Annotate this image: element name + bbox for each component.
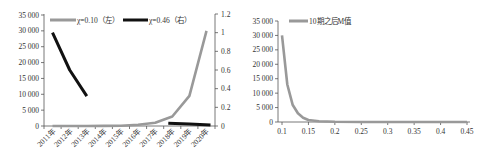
y-tick-label: 30 000 — [252, 31, 273, 40]
x-tick-label: 0.1 — [277, 127, 287, 136]
legend: χ=0.10（左） χ=0.46（右） — [50, 15, 191, 25]
x-tick-label: 0.4 — [436, 127, 446, 136]
y-tick-label: 0.8 — [221, 47, 231, 56]
y-tick-label: 35 000 — [18, 11, 39, 20]
y-tick-label: 35 000 — [252, 17, 273, 26]
y-tick-label: 0.2 — [221, 103, 231, 112]
series-line — [53, 33, 87, 96]
y-tick-label: 20 000 — [18, 58, 39, 67]
y-tick-label: 0 — [35, 122, 39, 131]
right-chart: 05 00010 00015 00020 00025 00030 00035 0… — [252, 16, 473, 136]
y-tick-label: 15 000 — [18, 74, 39, 83]
y-tick-label: 0.4 — [221, 84, 231, 93]
legend-label-chi010: χ=0.10（左） — [77, 15, 119, 25]
y-tick-label: 15 000 — [252, 74, 273, 83]
y-tick-label: 5 000 — [22, 106, 39, 115]
y-tick-label: 1.2 — [221, 10, 231, 19]
y-tick-label: 25 000 — [18, 42, 39, 51]
y-tick-label: 0 — [221, 122, 225, 131]
x-tick-label: 0.25 — [355, 127, 368, 136]
legend: 10期之后M值 — [289, 16, 352, 26]
series-line — [168, 123, 210, 125]
y-tick-label: 5 000 — [256, 103, 273, 112]
charts-canvas: 05 00010 00015 00020 00025 00030 00035 0… — [0, 0, 483, 159]
x-tick-label: 0.35 — [408, 127, 421, 136]
left-y-ticks: 05 00010 00015 00020 00025 00030 00035 0… — [18, 11, 44, 131]
y-tick-label: 25 000 — [252, 45, 273, 54]
x-tick-label: 2020年 — [188, 126, 211, 149]
y-tick-label: 20 000 — [252, 60, 273, 69]
y-tick-label: 30 000 — [18, 26, 39, 35]
x-ticks: 2011年2012年2013年2014年2015年2016年2017年2018年… — [35, 126, 215, 149]
y-tick-label: 0.6 — [221, 66, 231, 75]
left-chart: 05 00010 00015 00020 00025 00030 00035 0… — [18, 10, 230, 149]
series-line — [282, 35, 467, 122]
y-ticks: 05 00010 00015 00020 00025 00030 00035 0… — [252, 17, 278, 127]
x-ticks: 0.10.150.20.250.30.350.40.45 — [277, 122, 474, 136]
legend-label-chi046: χ=0.46（右） — [149, 15, 191, 25]
legend-label-m: 10期之后M值 — [309, 16, 352, 26]
series-line — [282, 35, 467, 122]
y-tick-label: 10 000 — [252, 89, 273, 98]
y-tick-label: 10 000 — [18, 90, 39, 99]
x-tick-label: 0.15 — [302, 127, 315, 136]
right-y-ticks: 00.20.40.60.811.2 — [215, 10, 231, 131]
y-tick-label: 0 — [269, 118, 273, 127]
y-tick-label: 1 — [221, 28, 225, 37]
x-tick-label: 0.3 — [383, 127, 393, 136]
x-tick-label: 0.45 — [460, 127, 473, 136]
x-tick-label: 0.2 — [330, 127, 340, 136]
series-lines — [53, 31, 211, 126]
